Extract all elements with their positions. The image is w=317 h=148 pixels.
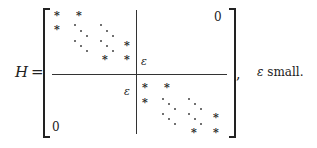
- zero-bottom-left: 0: [52, 120, 60, 134]
- diagonal-dot: [86, 50, 88, 52]
- diagonal-dot: [162, 113, 164, 115]
- diagonal-dot: [200, 108, 202, 110]
- matrix-name: H=: [15, 63, 44, 81]
- matrix-entry-star: *: [102, 54, 108, 65]
- block-divider-vertical: [136, 10, 137, 134]
- matrix-entry-star: *: [191, 127, 197, 138]
- diagonal-dot: [174, 123, 176, 125]
- diagonal-dot: [80, 30, 82, 32]
- diagonal-dot: [168, 118, 170, 120]
- matrix-entry-star: *: [54, 10, 60, 21]
- matrix-entry-star: *: [54, 24, 60, 35]
- equals-sign: =: [31, 63, 44, 81]
- diagonal-dot: [200, 123, 202, 125]
- diagonal-dot: [188, 113, 190, 115]
- diagonal-dot: [194, 103, 196, 105]
- diagonal-dot: [86, 35, 88, 37]
- epsilon-bottom-left-block: ε: [124, 85, 130, 98]
- diagonal-dot: [74, 40, 76, 42]
- matrix-entry-star: *: [124, 54, 130, 65]
- matrix-entry-star: *: [142, 82, 148, 93]
- zero-top-right: 0: [214, 10, 222, 24]
- diagonal-dot: [162, 98, 164, 100]
- diagonal-dot: [174, 108, 176, 110]
- matrix-entry-star: *: [124, 40, 130, 51]
- diagonal-dot: [74, 24, 76, 26]
- left-bracket: [43, 8, 50, 138]
- diagonal-dot: [194, 118, 196, 120]
- diagonal-dot: [80, 45, 82, 47]
- diagonal-dot: [112, 50, 114, 52]
- diagonal-dot: [188, 98, 190, 100]
- diagonal-dot: [106, 45, 108, 47]
- matrix-entry-star: *: [213, 112, 219, 123]
- matrix-entry-star: *: [213, 127, 219, 138]
- trailing-comma: ,: [236, 66, 240, 82]
- diagonal-dot: [112, 35, 114, 37]
- epsilon-top-right-block: ε: [141, 55, 147, 68]
- diagonal-dot: [168, 103, 170, 105]
- diagonal-dot: [100, 40, 102, 42]
- matrix-entry-star: *: [164, 82, 170, 93]
- matrix-entry-star: *: [142, 97, 148, 108]
- block-divider-horizontal: [52, 74, 227, 75]
- epsilon-small-note: ε small.: [257, 65, 303, 79]
- matrix-entry-star: *: [76, 10, 82, 21]
- diagonal-dot: [106, 30, 108, 32]
- right-bracket: [229, 8, 236, 138]
- diagonal-dot: [100, 24, 102, 26]
